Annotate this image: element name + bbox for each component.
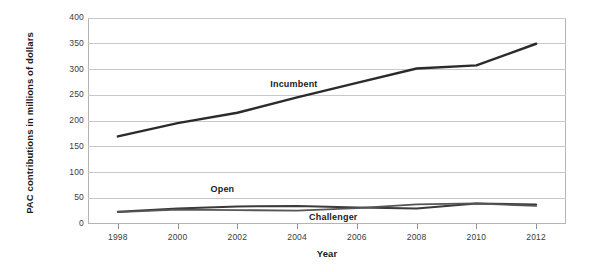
y-tick-label: 300 <box>50 64 84 74</box>
y-tick-label: 350 <box>50 38 84 48</box>
x-axis-title: Year <box>88 248 566 259</box>
y-tick-label: 50 <box>50 192 84 202</box>
x-tick-label: 2010 <box>454 232 498 242</box>
plot-svg <box>88 18 566 224</box>
series-label-challenger: Challenger <box>309 212 358 222</box>
y-tick-label: 200 <box>50 115 84 125</box>
x-tick-label: 2006 <box>335 232 379 242</box>
x-tick-label: 2012 <box>514 232 558 242</box>
y-tick-label: 400 <box>50 12 84 22</box>
x-tick-mark <box>357 224 358 229</box>
y-tick-label: 250 <box>50 89 84 99</box>
x-tick-label: 2002 <box>215 232 259 242</box>
x-tick-mark <box>536 224 537 229</box>
y-tick-label: 100 <box>50 167 84 177</box>
series-label-incumbent: Incumbent <box>270 79 317 89</box>
gridlines-group <box>88 18 566 198</box>
x-tick-mark <box>417 224 418 229</box>
series-line-incumbent <box>118 44 536 137</box>
y-tick-label: 0 <box>50 218 84 228</box>
x-tick-label: 2000 <box>156 232 200 242</box>
x-tick-mark <box>118 224 119 229</box>
series-label-open: Open <box>210 184 234 194</box>
x-tick-label: 2004 <box>275 232 319 242</box>
y-tick-label: 150 <box>50 141 84 151</box>
x-tick-mark <box>178 224 179 229</box>
pac-contributions-line-chart: PAC contributions in millions of dollars… <box>0 0 598 272</box>
x-tick-mark <box>297 224 298 229</box>
x-tick-label: 2008 <box>395 232 439 242</box>
x-tick-label: 1998 <box>96 232 140 242</box>
x-tick-mark <box>237 224 238 229</box>
y-axis-title: PAC contributions in millions of dollars <box>22 18 38 228</box>
x-tick-mark <box>476 224 477 229</box>
